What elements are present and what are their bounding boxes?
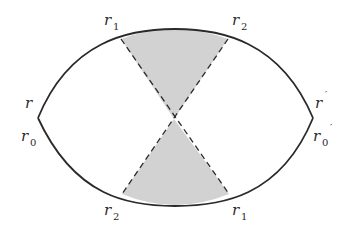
svg-text:′: ′ xyxy=(330,122,333,133)
label-left-lower: r 0 xyxy=(21,127,36,148)
svg-text:r: r xyxy=(21,127,29,145)
top-shaded-sector xyxy=(121,29,228,119)
svg-text:1: 1 xyxy=(113,21,119,32)
svg-text:r: r xyxy=(232,11,240,29)
lens-diagram: r 1 r 2 r r 0 r ′ r 0 ′ r 2 r 1 xyxy=(0,0,352,233)
svg-text:1: 1 xyxy=(241,211,247,222)
svg-text:r: r xyxy=(313,127,321,145)
svg-text:0: 0 xyxy=(322,137,328,148)
bottom-shaded-sector xyxy=(122,119,229,205)
label-right-lower: r 0 ′ xyxy=(313,122,333,148)
svg-text:r: r xyxy=(104,11,112,29)
label-bottom-right: r 1 xyxy=(232,201,247,222)
svg-text:r: r xyxy=(104,201,112,219)
label-top-right: r 2 xyxy=(232,11,247,32)
svg-text:′: ′ xyxy=(325,89,328,100)
label-top-left: r 1 xyxy=(104,11,119,32)
svg-text:r: r xyxy=(315,94,323,112)
svg-text:0: 0 xyxy=(30,137,36,148)
svg-text:r: r xyxy=(232,201,240,219)
label-left-upper: r xyxy=(25,94,33,112)
label-bottom-left: r 2 xyxy=(104,201,119,222)
svg-text:r: r xyxy=(25,94,33,112)
svg-text:2: 2 xyxy=(113,211,119,222)
svg-text:2: 2 xyxy=(241,21,247,32)
label-right-upper: r ′ xyxy=(315,89,328,112)
